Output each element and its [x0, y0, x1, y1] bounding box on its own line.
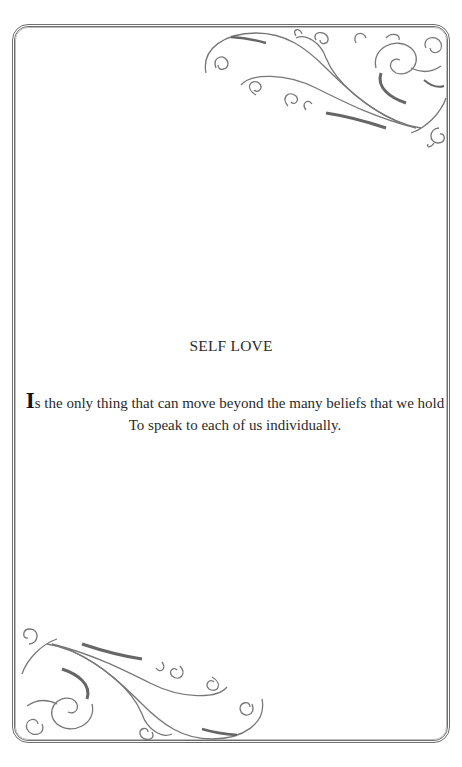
body-line-1-text: s the only thing that can move beyond th… — [35, 395, 445, 411]
body-line-2: To speak to each of us individually. — [16, 414, 454, 436]
flourish-ornament-top-right-icon — [196, 28, 450, 150]
body-text: Is the only thing that can move beyond t… — [16, 390, 454, 436]
drop-cap: I — [26, 388, 35, 413]
page-title: SELF LOVE — [0, 337, 462, 355]
body-line-1: Is the only thing that can move beyond t… — [16, 390, 454, 414]
flourish-ornament-bottom-left-icon — [16, 622, 272, 744]
